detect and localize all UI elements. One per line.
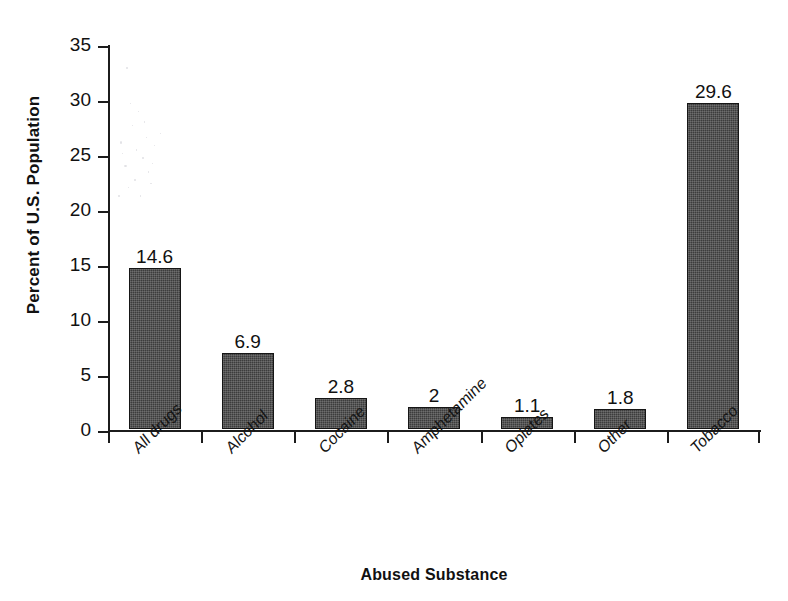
scan-speckle bbox=[160, 133, 161, 134]
bar-value-label: 2 bbox=[429, 386, 440, 406]
y-axis-tick-label: 5 bbox=[47, 365, 91, 385]
y-axis-tick-label: 0 bbox=[47, 420, 91, 440]
plot-area: 05101520253035 14.66.92.821.11.829.6 bbox=[108, 45, 760, 431]
bar-value-label: 1.8 bbox=[607, 388, 633, 408]
scan-speckle bbox=[146, 137, 147, 138]
scan-speckle bbox=[142, 157, 144, 159]
x-axis-tick bbox=[108, 432, 110, 443]
y-axis-tick-label: 20 bbox=[47, 200, 91, 220]
scan-speckle bbox=[136, 149, 137, 151]
x-axis-tick bbox=[667, 432, 669, 443]
bar bbox=[687, 103, 739, 429]
x-axis-tick bbox=[758, 432, 760, 443]
scan-speckle bbox=[120, 141, 122, 144]
scan-speckle bbox=[152, 163, 153, 164]
y-axis-tick: 35 bbox=[98, 46, 108, 48]
y-axis-tick: 25 bbox=[98, 156, 108, 158]
bar-value-label: 29.6 bbox=[695, 82, 732, 102]
scan-speckle bbox=[118, 195, 120, 197]
scan-speckle bbox=[128, 187, 129, 188]
scan-speckle bbox=[150, 183, 152, 184]
scan-speckle bbox=[140, 195, 141, 197]
x-axis-tick bbox=[294, 432, 296, 443]
y-axis-tick: 10 bbox=[98, 321, 108, 323]
scan-speckle bbox=[126, 67, 128, 69]
bar-value-label: 2.8 bbox=[328, 377, 354, 397]
bar-value-label: 6.9 bbox=[234, 332, 260, 352]
y-axis-tick-label: 25 bbox=[47, 145, 91, 165]
y-axis-tick-label: 15 bbox=[47, 255, 91, 275]
y-axis-tick-label: 30 bbox=[47, 90, 91, 110]
scan-speckle bbox=[134, 179, 136, 181]
y-axis-line bbox=[108, 45, 110, 432]
scan-speckle bbox=[122, 153, 123, 154]
x-axis-tick bbox=[481, 432, 483, 443]
scan-speckle bbox=[148, 171, 149, 173]
scan-speckle bbox=[130, 103, 131, 104]
y-axis-tick-label: 35 bbox=[47, 35, 91, 55]
scan-speckle bbox=[124, 165, 127, 167]
x-axis-tick bbox=[201, 432, 203, 443]
scan-speckle bbox=[132, 125, 133, 126]
bar-value-label: 14.6 bbox=[136, 247, 173, 267]
y-axis-tick: 5 bbox=[98, 376, 108, 378]
scan-speckle bbox=[144, 121, 145, 123]
scan-speckle bbox=[138, 111, 139, 112]
x-axis-tick bbox=[387, 432, 389, 443]
y-axis-tick: 20 bbox=[98, 211, 108, 213]
x-axis-tick bbox=[574, 432, 576, 443]
y-axis-tick-label: 10 bbox=[47, 310, 91, 330]
x-axis-title: Abused Substance bbox=[108, 566, 760, 584]
bar-chart-figure: Percent of U.S. Population 0510152025303… bbox=[0, 0, 788, 601]
scan-speckle bbox=[154, 145, 155, 146]
y-axis-tick: 15 bbox=[98, 266, 108, 268]
y-axis-tick: 0 bbox=[98, 431, 108, 433]
y-axis-tick: 30 bbox=[98, 101, 108, 103]
